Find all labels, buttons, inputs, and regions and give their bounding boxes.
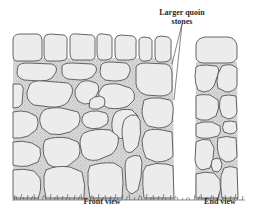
wall-illustration: Larger quoin stones Front view End view xyxy=(0,0,255,216)
end-view-wall xyxy=(195,37,238,200)
wall-drawing xyxy=(0,0,255,216)
callout-leader-line-2 xyxy=(174,24,182,100)
callout-label-line1: Larger quoin xyxy=(158,8,206,17)
callout-label-quoin-stones: Larger quoin stones xyxy=(158,8,206,26)
end-view-caption: End view xyxy=(200,197,240,206)
front-view-wall xyxy=(13,34,174,200)
callout-leader-line xyxy=(172,24,182,64)
callout-label-line2: stones xyxy=(158,17,206,26)
front-view-caption: Front view xyxy=(72,197,132,206)
